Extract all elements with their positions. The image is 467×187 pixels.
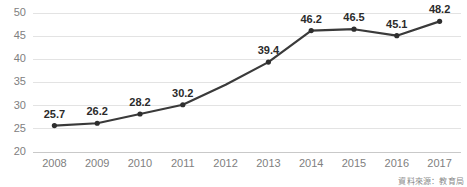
x-axis-tick-label: 2008 (42, 157, 66, 169)
y-axis-tick-label: 20 (14, 145, 26, 157)
x-axis-tick-label: 2016 (385, 157, 409, 169)
data-point-label: 46.5 (343, 11, 364, 23)
y-axis-tick-label: 40 (14, 52, 26, 64)
data-point-marker (394, 33, 399, 38)
source-note: 資料來源：教育局 (398, 175, 464, 186)
x-axis-tick-labels: 2008200920102011201220132014201520162017 (42, 157, 452, 169)
data-point-label: 30.2 (172, 87, 193, 99)
data-point-label: 25.7 (44, 108, 65, 120)
data-point-label: 45.1 (386, 18, 407, 30)
x-axis-tick-label: 2014 (299, 157, 323, 169)
x-axis-tick-label: 2011 (171, 157, 195, 169)
data-series (54, 21, 439, 125)
x-axis-tick-label: 2017 (427, 157, 451, 169)
x-axis-tick-label: 2010 (128, 157, 152, 169)
line-chart: 20253035404550 2008200920102011201220132… (0, 0, 467, 187)
data-point-marker (351, 27, 356, 32)
data-point-marker (180, 102, 185, 107)
data-point-label: 39.4 (258, 44, 280, 56)
y-axis-tick-labels: 20253035404550 (14, 6, 26, 157)
y-axis-tick-label: 35 (14, 75, 26, 87)
x-axis-tick-label: 2009 (85, 157, 109, 169)
data-point-marker (137, 111, 142, 116)
data-point-marker (437, 19, 442, 24)
chart-plot-area: 20253035404550 2008200920102011201220132… (0, 0, 467, 187)
data-point-labels: 25.726.228.230.239.446.246.545.148.2 (44, 3, 451, 119)
x-axis-tick-label: 2013 (256, 157, 280, 169)
data-point-label: 26.2 (86, 105, 107, 117)
y-axis-tick-label: 45 (14, 29, 26, 41)
data-point-marker (95, 121, 100, 126)
data-point-marker (52, 123, 57, 128)
data-point-label: 46.2 (300, 13, 321, 25)
y-axis-tick-label: 50 (14, 6, 26, 18)
series-line (54, 21, 439, 125)
y-axis-tick-label: 25 (14, 122, 26, 134)
data-point-marker (309, 28, 314, 33)
x-axis-tick-label: 2015 (342, 157, 366, 169)
data-point-marker (266, 60, 271, 65)
y-axis-tick-label: 30 (14, 99, 26, 111)
x-axis-tick-label: 2012 (213, 157, 237, 169)
data-point-label: 28.2 (129, 96, 150, 108)
data-point-label: 48.2 (429, 3, 450, 15)
